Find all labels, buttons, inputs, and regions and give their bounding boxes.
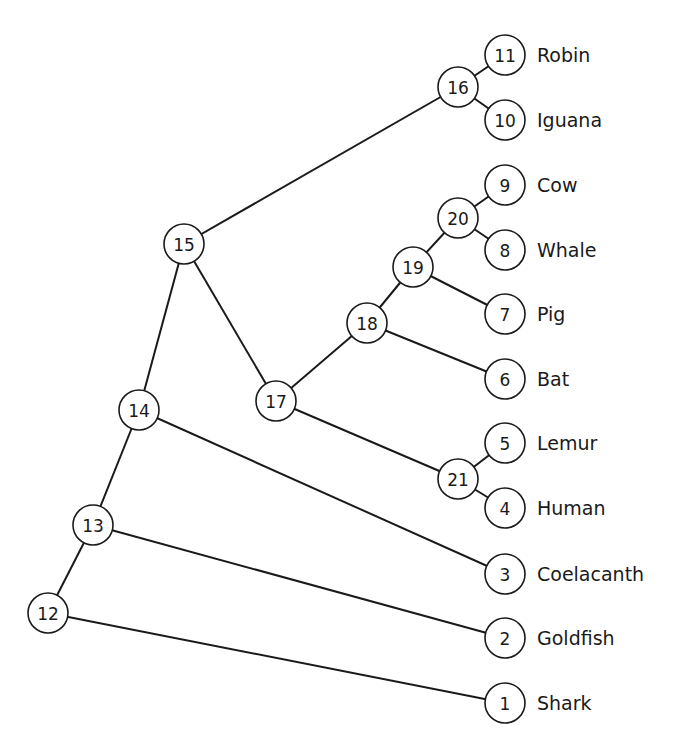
- species-label: Goldfish: [537, 627, 615, 649]
- species-label: Shark: [537, 692, 592, 714]
- species-label: Bat: [537, 368, 569, 390]
- species-label: Lemur: [537, 432, 597, 454]
- node-number: 11: [494, 46, 516, 66]
- edge-18-6: [367, 323, 505, 379]
- internal-node-13: 13: [73, 505, 113, 545]
- internal-node-12: 12: [28, 593, 68, 633]
- leaf-node-shark: 1Shark: [485, 683, 592, 723]
- species-label: Coelacanth: [537, 563, 644, 585]
- internal-node-20: 20: [438, 198, 478, 238]
- node-number: 18: [356, 314, 378, 334]
- node-number: 17: [265, 392, 287, 412]
- node-number: 5: [500, 434, 511, 454]
- species-label: Human: [537, 497, 606, 519]
- node-number: 6: [500, 370, 511, 390]
- node-number: 21: [447, 470, 469, 490]
- node-number: 8: [500, 241, 511, 261]
- node-number: 9: [500, 176, 511, 196]
- internal-node-18: 18: [347, 303, 387, 343]
- node-number: 3: [500, 565, 511, 585]
- internal-node-19: 19: [393, 247, 433, 287]
- leaf-node-lemur: 5Lemur: [485, 423, 597, 463]
- internal-node-21: 21: [438, 459, 478, 499]
- node-number: 12: [37, 604, 59, 624]
- edge-17-21: [276, 401, 458, 479]
- leaf-node-human: 4Human: [485, 488, 606, 528]
- node-number: 19: [402, 258, 424, 278]
- tree-nodes: 1Shark2Goldfish3Coelacanth4Human5Lemur6B…: [28, 35, 644, 723]
- edge-13-2: [93, 525, 505, 638]
- leaf-node-robin: 11Robin: [485, 35, 590, 75]
- edge-14-15: [139, 244, 184, 410]
- node-number: 1: [500, 694, 511, 714]
- node-number: 4: [500, 499, 511, 519]
- node-number: 20: [447, 209, 469, 229]
- internal-node-16: 16: [438, 67, 478, 107]
- leaf-node-goldfish: 2Goldfish: [485, 618, 615, 658]
- leaf-node-pig: 7Pig: [485, 294, 565, 334]
- node-number: 10: [494, 111, 516, 131]
- edge-15-16: [184, 87, 458, 244]
- node-number: 2: [500, 629, 511, 649]
- species-label: Cow: [537, 174, 577, 196]
- leaf-node-cow: 9Cow: [485, 165, 577, 205]
- edge-15-17: [184, 244, 276, 401]
- leaf-node-coelacanth: 3Coelacanth: [485, 554, 644, 594]
- internal-node-15: 15: [164, 224, 204, 264]
- edge-12-1: [48, 613, 505, 703]
- leaf-node-whale: 8Whale: [485, 230, 596, 270]
- node-number: 15: [173, 235, 195, 255]
- tree-edges: [48, 55, 505, 703]
- leaf-node-bat: 6Bat: [485, 359, 569, 399]
- internal-node-17: 17: [256, 381, 296, 421]
- node-number: 13: [82, 516, 104, 536]
- species-label: Iguana: [537, 109, 602, 131]
- node-number: 7: [500, 305, 511, 325]
- node-number: 14: [128, 401, 150, 421]
- internal-node-14: 14: [119, 390, 159, 430]
- species-label: Robin: [537, 44, 590, 66]
- node-number: 16: [447, 78, 469, 98]
- phylogenetic-tree: 1Shark2Goldfish3Coelacanth4Human5Lemur6B…: [0, 0, 675, 750]
- species-label: Whale: [537, 239, 596, 261]
- species-label: Pig: [537, 303, 565, 325]
- leaf-node-iguana: 10Iguana: [485, 100, 602, 140]
